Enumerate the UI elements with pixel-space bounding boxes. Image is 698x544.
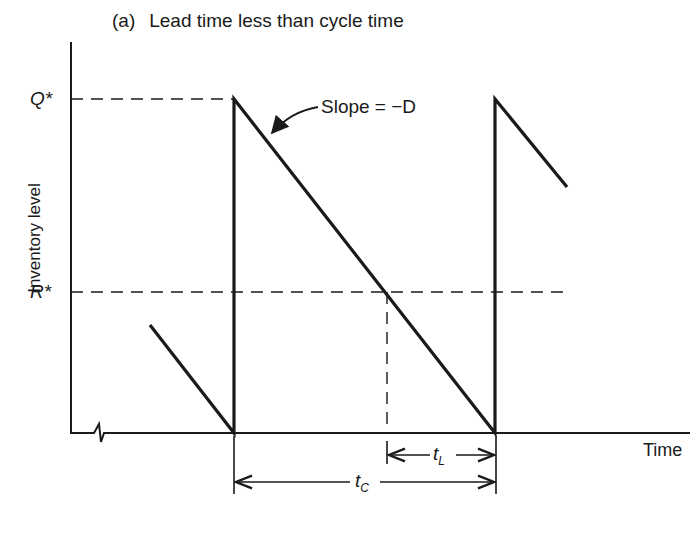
- x-axis-label: Time: [643, 440, 682, 461]
- q-star-label: Q*: [30, 88, 52, 110]
- lead-time-label: tL: [433, 443, 445, 468]
- inventory-chart: [0, 0, 698, 544]
- slope-arrow: [272, 107, 318, 133]
- x-axis-break: [71, 424, 690, 442]
- r-star-label: R*: [30, 281, 51, 303]
- cycle-time-label: tC: [355, 470, 369, 495]
- inventory-sawtooth: [150, 99, 567, 433]
- slope-label: Slope = −D: [321, 96, 416, 118]
